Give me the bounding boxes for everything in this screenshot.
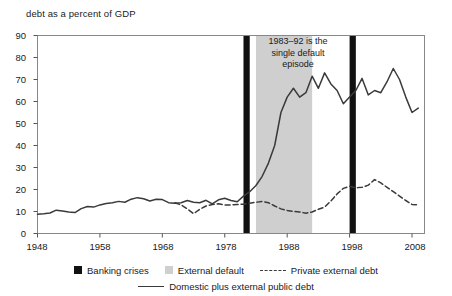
solid-line-icon <box>138 286 164 287</box>
legend-item-public-debt: Domestic plus external public debt <box>138 281 314 292</box>
legend-row-2: Domestic plus external public debt <box>0 278 452 294</box>
chart-legend: Banking crises External default Private … <box>0 262 452 294</box>
legend-label-private-external-debt: Private external debt <box>291 265 378 276</box>
series-line-domestic-plus-external-public-debt <box>38 69 419 215</box>
legend-item-external-default: External default <box>165 265 244 276</box>
legend-label-public-debt: Domestic plus external public debt <box>169 281 314 292</box>
legend-row-1: Banking crises External default Private … <box>0 262 452 278</box>
legend-item-banking-crises: Banking crises <box>74 265 149 276</box>
chart-figure: debt as a percent of GDP 90 80 70 60 50 … <box>0 0 452 296</box>
chart-annotation: 1983–92 is the single default episode <box>262 36 334 71</box>
dashed-line-icon <box>260 270 286 271</box>
gray-square-icon <box>165 266 173 274</box>
chart-plot-area <box>0 0 452 296</box>
legend-item-private-external-debt: Private external debt <box>260 265 378 276</box>
legend-label-external-default: External default <box>178 265 244 276</box>
vertical-marker-banking-crisis-1 <box>350 36 356 234</box>
black-square-icon <box>74 266 82 274</box>
plot-frame <box>38 36 425 234</box>
legend-label-banking-crises: Banking crises <box>87 265 149 276</box>
